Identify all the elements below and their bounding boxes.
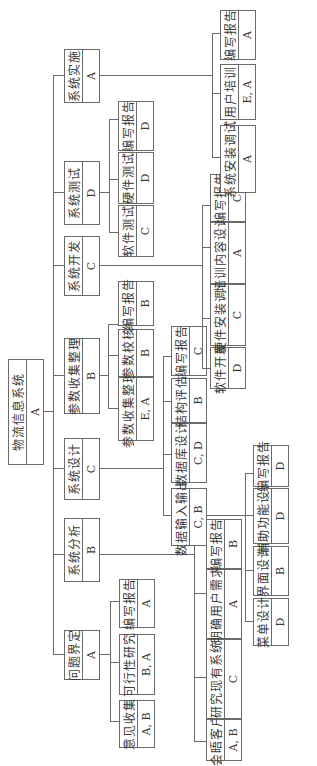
- node-role: C, B: [190, 489, 206, 545]
- node-role: B: [272, 547, 288, 595]
- task-parameter-collection: 参数收集整理 E, A: [118, 377, 154, 441]
- phase-system-implementation: 系统实施 A: [64, 49, 100, 103]
- node-role: D: [272, 599, 288, 645]
- node-role: A, B: [225, 720, 241, 760]
- connector: [44, 411, 53, 412]
- connector: [53, 192, 64, 193]
- connector: [202, 368, 210, 369]
- node-label: 会晤客户: [207, 720, 225, 760]
- node-role: C: [225, 640, 241, 718]
- connector: [194, 741, 206, 742]
- connector: [202, 247, 210, 248]
- task-software-testing: 软件测试 C: [118, 205, 154, 257]
- connector: [207, 515, 245, 516]
- phase-system-testing: 系统测试 D: [64, 161, 100, 225]
- connector: [194, 593, 206, 594]
- node-role: B: [83, 339, 99, 413]
- connector: [100, 75, 212, 76]
- node-role: D: [83, 162, 99, 224]
- node-label: 编写报告: [119, 282, 137, 325]
- node-role: B: [83, 519, 99, 581]
- connector: [163, 454, 171, 455]
- node-label: 参数校核: [119, 330, 137, 376]
- node-label: 物流信息系统: [9, 360, 27, 464]
- node-label: 编写报告: [172, 327, 190, 375]
- connector: [100, 654, 110, 655]
- node-label: 软件开发: [211, 348, 229, 388]
- node-role: A: [83, 631, 99, 679]
- node-label: 系统设计: [65, 439, 83, 499]
- connector: [108, 355, 118, 356]
- node-role: C: [83, 237, 99, 295]
- connector: [245, 621, 253, 622]
- node-label: 编写报告: [254, 446, 272, 486]
- task-data-io: 数据输入输出 C, B: [171, 488, 207, 546]
- node-label: 软件测试: [119, 206, 137, 256]
- connector: [245, 570, 253, 571]
- task-database-design: 数据库设计 C, D: [171, 423, 207, 483]
- task-write-report: 编写报告 D: [253, 445, 289, 487]
- task-write-report: 编写报告 D: [118, 101, 154, 151]
- node-label: 辅助功能设计: [254, 489, 272, 543]
- connector: [100, 192, 109, 193]
- node-role: B, A: [138, 635, 154, 694]
- connector: [109, 120, 110, 233]
- connector: [109, 232, 118, 233]
- task-training-content-design: 培训内容设计 A: [210, 222, 246, 284]
- connector: [163, 356, 171, 357]
- phase-parameter-collection: 参数收集整理 B: [64, 338, 100, 414]
- node-role: B: [137, 330, 153, 376]
- connector: [53, 75, 64, 76]
- node-label: 结构评估: [172, 379, 190, 422]
- connector: [108, 408, 118, 409]
- connector: [100, 265, 202, 266]
- connector: [163, 357, 164, 516]
- node-label: 系统开发: [65, 237, 83, 295]
- connector: [53, 375, 64, 376]
- task-define-user-requirements: 明确用户需求 A: [206, 569, 242, 639]
- connector: [108, 324, 118, 325]
- connector: [202, 205, 210, 206]
- phase-system-development: 系统开发 C: [64, 236, 100, 296]
- task-hardware-installation: 硬件安装调试 C: [210, 284, 246, 346]
- node-label: 硬件安装调试: [211, 285, 229, 345]
- connector: [53, 265, 64, 266]
- task-parameter-check: 参数校核 B: [118, 329, 154, 377]
- node-role: B: [225, 520, 241, 568]
- task-user-training: 用户培训 E, A: [220, 64, 256, 120]
- node-role: C, D: [190, 424, 206, 482]
- node-role: D: [272, 489, 288, 543]
- node-label: 意见收集: [120, 701, 138, 747]
- connector: [53, 468, 64, 469]
- task-structure-evaluation: 结构评估 B: [171, 378, 207, 423]
- node-role: E, A: [137, 378, 153, 440]
- node-label: 系统测试: [65, 162, 83, 224]
- connector: [53, 76, 54, 655]
- task-feasibility-study: 可行性研究 B, A: [119, 634, 155, 695]
- task-write-report: 编写报告 B: [206, 519, 242, 569]
- node-label: 菜单设计: [254, 599, 272, 645]
- phase-system-analysis: 系统分析 B: [64, 518, 100, 582]
- connector: [202, 318, 210, 319]
- connector: [212, 93, 220, 94]
- connector: [53, 554, 64, 555]
- task-menu-design: 菜单设计 D: [253, 598, 289, 646]
- task-write-report: 编写报告 A: [220, 10, 256, 60]
- node-role: D: [137, 153, 153, 203]
- node-role: D: [137, 102, 153, 150]
- node-role: A, B: [138, 701, 154, 747]
- node-label: 用户培训: [221, 65, 239, 119]
- connector: [245, 474, 246, 622]
- connector: [100, 468, 163, 469]
- connector: [202, 206, 203, 369]
- node-label: 硬件测试: [119, 153, 137, 203]
- node-label: 编写报告: [120, 580, 138, 627]
- phase-system-design: 系统设计 C: [64, 438, 100, 500]
- node-label: 参数收集整理: [65, 339, 83, 413]
- task-hardware-testing: 硬件测试 D: [118, 152, 154, 204]
- task-auxiliary-function-design: 辅助功能设计 D: [253, 488, 289, 544]
- node-label: 系统分析: [65, 519, 83, 581]
- node-label: 研究现有系统: [207, 640, 225, 718]
- connector: [245, 473, 253, 474]
- task-system-installation: 系统安装调试 A: [220, 125, 256, 193]
